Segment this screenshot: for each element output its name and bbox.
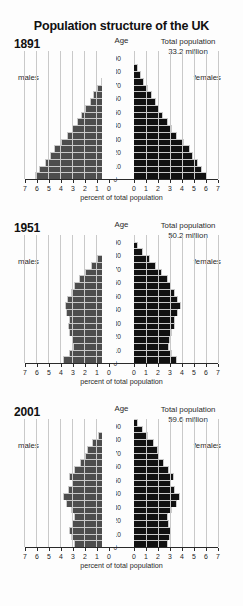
percent-tick-right-5-label: 5 xyxy=(192,185,196,192)
percent-tick-right-1 xyxy=(146,364,147,367)
bar-female-90+ xyxy=(134,51,135,58)
percent-tick-right-0-label: 0 xyxy=(132,553,136,560)
percent-tick-left-5-label: 5 xyxy=(47,369,51,376)
percent-tick-left-3 xyxy=(73,364,74,367)
percent-tick-right-6-label: 6 xyxy=(204,553,208,560)
bar-female-45-49 xyxy=(134,296,178,303)
gridline-vertical xyxy=(206,419,207,547)
percent-tick-left-0-label: 0 xyxy=(107,369,111,376)
percent-axis-title: percent of total population xyxy=(0,561,243,570)
pyramid-panel-2001: 2001Total population59.6 millionAgemales… xyxy=(0,401,243,585)
age-axis-gutter xyxy=(102,235,116,363)
bar-female-45-49 xyxy=(134,112,163,119)
bar-female-40-44 xyxy=(134,302,181,309)
bar-female-45-49 xyxy=(134,480,171,487)
percent-tick-left-2 xyxy=(85,548,86,551)
gridline-vertical xyxy=(182,235,183,363)
bar-female-30-34 xyxy=(134,316,175,323)
bar-female-70-74 xyxy=(134,446,158,453)
percent-tick-right-0-label: 0 xyxy=(132,185,136,192)
bar-female-0-4 xyxy=(134,540,168,547)
gridline-vertical xyxy=(24,51,25,179)
bar-female-55-59 xyxy=(134,466,169,473)
age-axis-title: Age xyxy=(0,404,243,413)
gridline-vertical xyxy=(218,235,219,363)
percent-tick-left-4-label: 4 xyxy=(59,185,63,192)
age-axis-title: Age xyxy=(0,36,243,45)
percent-tick-left-2-label: 2 xyxy=(83,185,87,192)
gridline-vertical xyxy=(24,419,25,547)
population-pyramid-figure: Population structure of the UK 1891Total… xyxy=(0,0,243,606)
percent-tick-left-1-label: 1 xyxy=(95,553,99,560)
gridline-vertical xyxy=(36,235,37,363)
bar-female-85-89 xyxy=(134,58,135,65)
percent-tick-left-3 xyxy=(73,548,74,551)
percent-tick-left-5-label: 5 xyxy=(47,185,51,192)
bar-female-0-4 xyxy=(134,356,177,363)
percent-tick-left-6 xyxy=(37,180,38,183)
percent-tick-left-6-label: 6 xyxy=(35,185,39,192)
percent-tick-right-7 xyxy=(218,364,219,367)
percent-tick-right-2-label: 2 xyxy=(156,369,160,376)
percent-tick-left-6 xyxy=(37,364,38,367)
percent-tick-right-0-label: 0 xyxy=(132,369,136,376)
plot-area xyxy=(25,235,218,363)
percent-tick-right-2 xyxy=(158,180,159,183)
percent-tick-right-4-label: 4 xyxy=(180,185,184,192)
percent-tick-right-4 xyxy=(182,364,183,367)
bar-male-20-24 xyxy=(54,145,109,152)
gridline-vertical xyxy=(218,419,219,547)
females-half xyxy=(134,51,218,179)
percent-tick-right-3-label: 3 xyxy=(168,369,172,376)
bar-female-75-79 xyxy=(134,255,150,262)
bar-female-10-14 xyxy=(134,343,169,350)
percent-tick-left-1-label: 1 xyxy=(95,185,99,192)
percent-tick-left-5-label: 5 xyxy=(47,553,51,560)
percent-tick-right-5 xyxy=(194,180,195,183)
percent-tick-right-6 xyxy=(206,364,207,367)
males-half xyxy=(25,51,109,179)
percent-axis: 7654321001234567 xyxy=(25,363,218,364)
gridline-vertical xyxy=(36,419,37,547)
males-half xyxy=(25,235,109,363)
percent-tick-right-5 xyxy=(194,364,195,367)
percent-tick-right-5 xyxy=(194,548,195,551)
percent-tick-right-5-label: 5 xyxy=(192,553,196,560)
bar-female-65-69 xyxy=(134,453,159,460)
gridline-vertical xyxy=(182,419,183,547)
gridline-vertical xyxy=(206,235,207,363)
bar-female-50-54 xyxy=(134,105,159,112)
percent-tick-right-4-label: 4 xyxy=(180,553,184,560)
percent-tick-left-6-label: 6 xyxy=(35,369,39,376)
bar-female-15-19 xyxy=(134,152,193,159)
bar-female-60-64 xyxy=(134,459,164,466)
bar-female-35-39 xyxy=(134,493,180,500)
bar-female-50-54 xyxy=(134,289,175,296)
bar-female-60-64 xyxy=(134,91,152,98)
bar-female-35-39 xyxy=(134,125,172,132)
gridline-vertical xyxy=(36,51,37,179)
percent-tick-left-4 xyxy=(61,548,62,551)
bar-female-25-29 xyxy=(134,139,184,146)
percent-tick-left-7-label: 7 xyxy=(23,185,27,192)
bar-female-20-24 xyxy=(134,329,172,336)
bar-female-75-79 xyxy=(134,439,154,446)
gridline-vertical xyxy=(194,235,195,363)
bar-female-90+ xyxy=(134,235,135,242)
percent-tick-right-7-label: 7 xyxy=(216,553,220,560)
bar-female-5-9 xyxy=(134,350,172,357)
percent-tick-left-0 xyxy=(109,364,110,367)
percent-tick-left-3-label: 3 xyxy=(71,185,75,192)
gridline-vertical xyxy=(206,51,207,179)
percent-tick-left-6 xyxy=(37,548,38,551)
percent-tick-right-3-label: 3 xyxy=(168,185,172,192)
percent-tick-left-0-label: 0 xyxy=(107,553,111,560)
percent-tick-left-1-label: 1 xyxy=(95,369,99,376)
percent-tick-left-2 xyxy=(85,180,86,183)
bar-female-25-29 xyxy=(134,507,172,514)
percent-tick-left-7 xyxy=(25,180,26,183)
bar-female-80-84 xyxy=(134,432,148,439)
gridline-vertical xyxy=(48,419,49,547)
percent-tick-left-5 xyxy=(49,548,50,551)
males-half xyxy=(25,419,109,547)
